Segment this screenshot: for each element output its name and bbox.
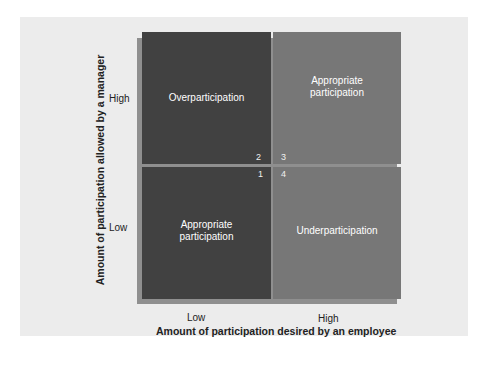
quadrant-underparticipation: Underparticipation	[273, 167, 401, 299]
quadrant-label: Appropriate participation	[180, 219, 234, 244]
quadrant-number: 3	[281, 152, 286, 162]
quadrant-appropriate-low: Appropriate participation	[142, 167, 271, 299]
quadrant-appropriate-high: Appropriate participation	[273, 32, 401, 164]
quadrant-label: Underparticipation	[296, 225, 377, 238]
quadrant-number: 2	[256, 152, 261, 162]
y-tick-low: Low	[109, 222, 127, 233]
quadrant-number: 1	[258, 169, 263, 179]
quadrant-overparticipation: Overparticipation	[142, 32, 271, 164]
x-axis-title: Amount of participation desired by an em…	[156, 325, 396, 337]
x-tick-low: Low	[187, 312, 205, 323]
quadrant-label: Appropriate participation	[310, 75, 364, 100]
y-axis-title: Amount of participation allowed by a man…	[94, 55, 106, 285]
y-tick-high: High	[109, 93, 130, 104]
x-tick-high: High	[318, 313, 339, 324]
quadrant-number: 4	[281, 169, 286, 179]
quadrant-label: Overparticipation	[169, 92, 245, 105]
